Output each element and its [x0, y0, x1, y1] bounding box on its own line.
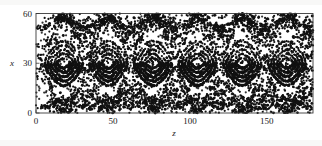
x-tick-label: 50	[108, 116, 118, 126]
x-tick-label: 0	[34, 116, 39, 126]
y-tick-label: 60	[23, 9, 33, 19]
x-axis-title: z	[171, 128, 176, 138]
figure-container: 050100150 03060 z x	[0, 0, 322, 146]
y-tick-label: 30	[23, 58, 33, 68]
y-axis-title: x	[9, 58, 14, 68]
y-tick-label: 0	[28, 108, 33, 118]
y-tick-labels: 03060	[23, 9, 33, 119]
scatter-plot: 050100150 03060 z x	[0, 0, 322, 146]
data-points-layer	[35, 12, 314, 114]
x-tick-label: 150	[260, 116, 274, 126]
x-tick-label: 100	[183, 116, 197, 126]
x-tick-labels: 050100150	[34, 116, 274, 126]
